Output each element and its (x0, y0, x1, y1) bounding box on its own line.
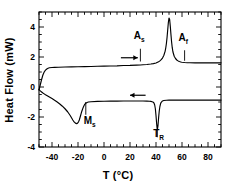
x-tick-label: 40 (151, 152, 161, 162)
x-tick-label: -20 (72, 152, 85, 162)
x-tick-label: -40 (46, 152, 59, 162)
y-tick-label: 4 (30, 22, 35, 32)
y-tick-label: -4 (27, 142, 35, 152)
y-tick-label: 2 (30, 52, 35, 62)
x-tick-label: 0 (102, 152, 107, 162)
label-As-main: A (134, 30, 141, 41)
y-tick-label: 0 (30, 82, 35, 92)
x-axis-title: T (°C) (103, 169, 134, 181)
label-Ms-main: M (84, 115, 92, 126)
label-As-sub: s (141, 36, 145, 43)
label-TR-sub: R (159, 134, 164, 141)
chart-background (0, 0, 237, 185)
label-Af-main: A (179, 32, 186, 43)
y-tick-label: -2 (27, 112, 35, 122)
x-tick-label: 80 (203, 152, 213, 162)
dsc-thermogram-figure: -40-20020406080 -4-2024 AsAfMsTR T (°C) … (0, 0, 237, 185)
chart-canvas: -40-20020406080 -4-2024 AsAfMsTR T (°C) … (0, 0, 237, 185)
x-tick-label: 60 (177, 152, 187, 162)
x-tick-label: 20 (125, 152, 135, 162)
y-axis-title: Heat Flow (mW) (3, 37, 15, 122)
label-Ms-sub: s (92, 121, 96, 128)
